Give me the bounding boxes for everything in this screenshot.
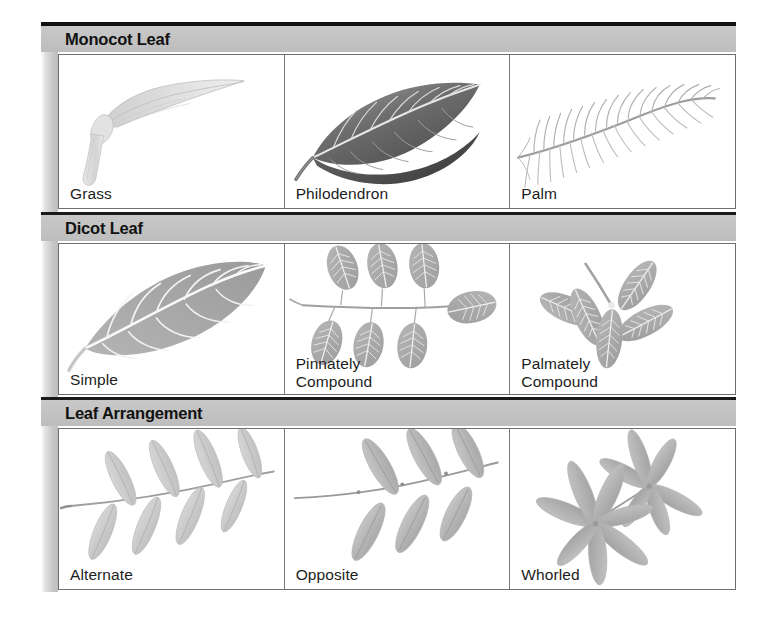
cell-caption: Pinnately Compound [296,355,373,390]
cell-row: Alternate [58,428,736,590]
cell-row: Simple [58,243,736,395]
leaf-types-figure: Monocot Leaf [41,22,736,592]
cell-row: Grass [58,54,736,209]
section-header-band: Monocot Leaf [41,26,736,52]
section-left-margin-strip [41,241,58,397]
cell-caption: Alternate [70,566,133,583]
section-header-band: Leaf Arrangement [41,400,736,426]
cell-caption: Simple [70,371,118,388]
cell-palmately-compound: Palmately Compound [510,244,735,394]
cell-palm: Palm [510,55,735,208]
cell-whorled: Whorled [510,429,735,589]
cell-alternate: Alternate [59,429,285,589]
cell-grass: Grass [59,55,285,208]
section-title: Leaf Arrangement [65,404,202,423]
section-left-margin-strip [41,426,58,592]
cell-caption: Palm [521,185,557,202]
cell-caption: Grass [70,185,112,202]
cell-opposite: Opposite [285,429,511,589]
cell-pinnately-compound: Pinnately Compound [285,244,511,394]
section-title: Monocot Leaf [65,30,170,49]
cell-caption: Palmately Compound [521,355,598,390]
section-monocot-leaf: Monocot Leaf [41,22,736,212]
cell-philodendron: Philodendron [285,55,511,208]
cell-caption: Philodendron [296,185,389,202]
cell-simple: Simple [59,244,285,394]
section-header-band: Dicot Leaf [41,215,736,241]
cell-caption: Opposite [296,566,359,583]
section-dicot-leaf: Dicot Leaf [41,212,736,397]
section-left-margin-strip [41,52,58,212]
cell-caption: Whorled [521,566,579,583]
section-leaf-arrangement: Leaf Arrangement [41,397,736,592]
section-title: Dicot Leaf [65,219,143,238]
